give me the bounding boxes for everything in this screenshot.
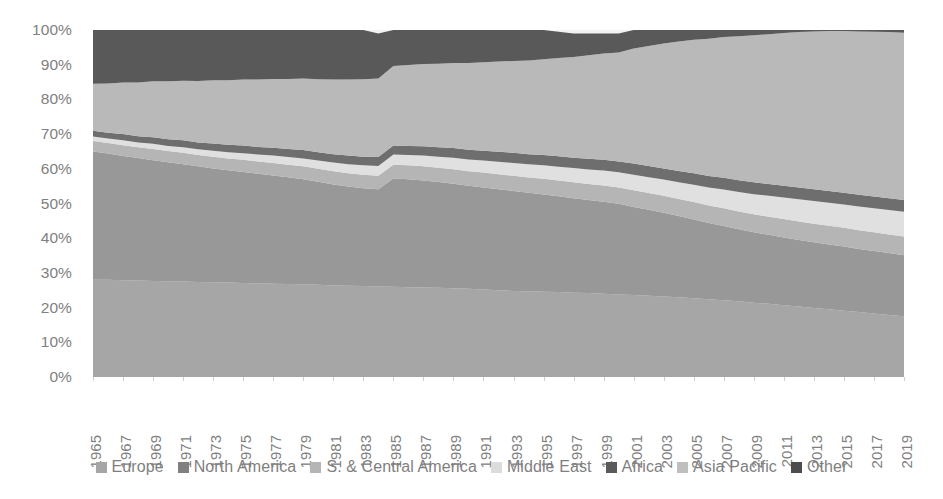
x-axis-tick-mark bbox=[904, 377, 905, 381]
x-axis-tick-mark bbox=[183, 377, 184, 381]
x-axis-tick-mark bbox=[544, 377, 545, 381]
x-axis-tick-mark bbox=[634, 377, 635, 381]
x-axis-tick-mark bbox=[814, 377, 815, 381]
x-axis-tick-mark bbox=[574, 377, 575, 381]
y-axis: 100%90%80%70%60%50%40%30%20%10%0% bbox=[0, 22, 80, 384]
plot-area bbox=[93, 30, 904, 377]
legend-item[interactable]: S. & Central America bbox=[310, 458, 477, 476]
x-axis-tick-mark bbox=[784, 377, 785, 381]
chart-legend: EuropeNorth AmericaS. & Central AmericaM… bbox=[0, 452, 943, 482]
x-axis-tick-mark bbox=[333, 377, 334, 381]
x-axis-tick-mark bbox=[123, 377, 124, 381]
y-axis-tick-label: 50% bbox=[41, 195, 72, 213]
legend-swatch-icon bbox=[606, 462, 617, 473]
legend-swatch-icon bbox=[310, 462, 321, 473]
x-axis-tick-mark bbox=[363, 377, 364, 381]
legend-item-label: North America bbox=[194, 458, 297, 476]
x-axis-tick-mark bbox=[604, 377, 605, 381]
legend-swatch-icon bbox=[178, 462, 189, 473]
x-axis-tick-mark bbox=[423, 377, 424, 381]
x-axis-tick-mark bbox=[303, 377, 304, 381]
y-axis-tick-label: 60% bbox=[41, 160, 72, 178]
x-axis-tick-mark bbox=[844, 377, 845, 381]
y-axis-tick-label: 100% bbox=[32, 21, 72, 39]
legend-item[interactable]: Middle East bbox=[491, 458, 592, 476]
legend-item[interactable]: North America bbox=[178, 458, 297, 476]
legend-item[interactable]: Asia Pacific bbox=[677, 458, 777, 476]
legend-swatch-icon bbox=[677, 462, 688, 473]
x-axis-tick-mark bbox=[213, 377, 214, 381]
x-axis-tick-mark bbox=[754, 377, 755, 381]
y-axis-tick-label: 20% bbox=[41, 299, 72, 317]
x-axis-tick-mark bbox=[664, 377, 665, 381]
y-axis-tick-label: 10% bbox=[41, 333, 72, 351]
legend-swatch-icon bbox=[96, 462, 107, 473]
legend-item[interactable]: Europe bbox=[96, 458, 164, 476]
x-axis-tick-mark bbox=[724, 377, 725, 381]
x-axis-tick-mark bbox=[393, 377, 394, 381]
x-axis-tick-mark bbox=[874, 377, 875, 381]
x-axis-tick-mark bbox=[273, 377, 274, 381]
legend-item-label: Europe bbox=[112, 458, 164, 476]
x-axis-tick-mark bbox=[153, 377, 154, 381]
legend-item[interactable]: Africa bbox=[606, 458, 664, 476]
legend-item-label: S. & Central America bbox=[326, 458, 477, 476]
y-axis-tick-label: 30% bbox=[41, 264, 72, 282]
y-axis-tick-label: 70% bbox=[41, 125, 72, 143]
x-axis-tick-mark bbox=[694, 377, 695, 381]
legend-item-label: Middle East bbox=[507, 458, 592, 476]
legend-item-label: Asia Pacific bbox=[693, 458, 777, 476]
x-axis-tick-mark bbox=[483, 377, 484, 381]
y-axis-tick-label: 90% bbox=[41, 56, 72, 74]
legend-item-label: Africa bbox=[622, 458, 664, 476]
y-axis-tick-label: 0% bbox=[49, 368, 72, 386]
x-axis-tick-mark bbox=[93, 377, 94, 381]
stacked-area-chart: 100%90%80%70%60%50%40%30%20%10%0% 196519… bbox=[0, 0, 943, 499]
legend-item[interactable]: Other bbox=[791, 458, 848, 476]
x-axis-tick-mark bbox=[453, 377, 454, 381]
legend-swatch-icon bbox=[791, 462, 802, 473]
x-axis: 1965196719691971197319751977197919811983… bbox=[93, 377, 904, 443]
x-axis-tick-mark bbox=[243, 377, 244, 381]
y-axis-tick-label: 40% bbox=[41, 229, 72, 247]
area-series-group bbox=[93, 30, 904, 377]
legend-swatch-icon bbox=[491, 462, 502, 473]
x-axis-tick-mark bbox=[514, 377, 515, 381]
legend-item-label: Other bbox=[807, 458, 848, 476]
y-axis-tick-label: 80% bbox=[41, 90, 72, 108]
